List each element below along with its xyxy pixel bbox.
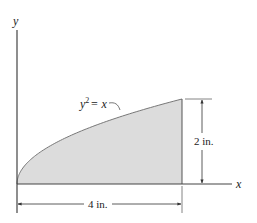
- area-diagram: y x y2= x 2 in. 4 in.: [0, 0, 257, 223]
- height-label: 2 in.: [194, 135, 214, 147]
- shaded-area: [17, 99, 182, 184]
- x-axis-label: x: [235, 177, 242, 191]
- width-label: 4 in.: [88, 198, 108, 210]
- curve-equation-label: y2= x: [79, 96, 107, 111]
- y-axis-label: y: [12, 14, 19, 28]
- equation-leader-line: [109, 103, 120, 110]
